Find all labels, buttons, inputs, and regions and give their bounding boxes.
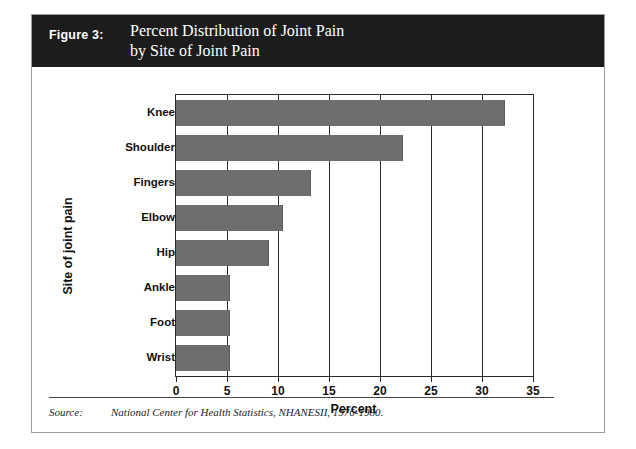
category-label-wrist: Wrist	[80, 351, 175, 363]
x-tick-0	[176, 377, 177, 382]
gridline-25	[431, 95, 432, 376]
bar-ankle	[176, 275, 230, 301]
category-label-hip: Hip	[80, 246, 175, 258]
x-tick-5	[227, 377, 228, 382]
x-tick-label-35: 35	[518, 384, 548, 398]
inner-tick	[329, 164, 330, 168]
inner-tick	[380, 129, 381, 133]
category-label-knee: Knee	[80, 106, 175, 118]
bar-foot	[176, 310, 230, 336]
source-divider	[49, 397, 554, 398]
inner-tick	[278, 234, 279, 238]
plot-area: 05101520253035	[175, 94, 534, 377]
bar-hip	[176, 240, 269, 266]
x-tick-15	[329, 377, 330, 382]
inner-tick	[227, 339, 228, 343]
category-label-foot: Foot	[80, 316, 175, 328]
category-label-fingers: Fingers	[80, 176, 175, 188]
x-tick-label-15: 15	[314, 384, 344, 398]
category-label-elbow: Elbow	[80, 211, 175, 223]
source-note: Source:National Center for Health Statis…	[49, 406, 589, 418]
figure-title: Percent Distribution of Joint Pain by Si…	[130, 21, 570, 61]
x-tick-label-5: 5	[212, 384, 242, 398]
inner-tick	[227, 129, 228, 133]
category-label-shoulder: Shoulder	[80, 141, 175, 153]
figure-title-line-1: Percent Distribution of Joint Pain	[130, 21, 570, 41]
inner-tick	[431, 129, 432, 133]
bar-elbow	[176, 205, 283, 231]
bar-wrist	[176, 345, 230, 371]
inner-tick	[278, 199, 279, 203]
x-tick-30	[482, 377, 483, 382]
x-tick-10	[278, 377, 279, 382]
bar-fingers	[176, 170, 311, 196]
inner-tick	[227, 304, 228, 308]
inner-tick	[227, 234, 228, 238]
figure-header-band: Figure 3: Percent Distribution of Joint …	[32, 15, 604, 67]
inner-tick	[227, 164, 228, 168]
bar-shoulder	[176, 135, 403, 161]
inner-tick	[380, 164, 381, 168]
source-text: National Center for Health Statistics, N…	[111, 406, 383, 418]
inner-tick	[227, 269, 228, 273]
y-axis-category-labels: KneeShoulderFingersElbowHipAnkleFootWris…	[80, 94, 175, 375]
inner-tick	[278, 164, 279, 168]
x-tick-25	[431, 377, 432, 382]
x-tick-label-30: 30	[467, 384, 497, 398]
x-tick-label-25: 25	[416, 384, 446, 398]
x-tick-label-20: 20	[365, 384, 395, 398]
inner-tick	[278, 129, 279, 133]
figure-number-label: Figure 3:	[49, 28, 104, 42]
x-tick-35	[533, 377, 534, 382]
inner-tick	[482, 129, 483, 133]
x-tick-label-10: 10	[263, 384, 293, 398]
gridline-30	[482, 95, 483, 376]
inner-tick	[329, 129, 330, 133]
bar-knee	[176, 100, 505, 126]
x-tick-label-0: 0	[161, 384, 191, 398]
inner-tick	[227, 199, 228, 203]
source-label: Source:	[49, 406, 111, 418]
figure-container: Figure 3: Percent Distribution of Joint …	[31, 14, 605, 433]
y-axis-title: Site of joint pain	[61, 166, 75, 326]
x-tick-20	[380, 377, 381, 382]
figure-title-line-2: by Site of Joint Pain	[130, 41, 570, 61]
category-label-ankle: Ankle	[80, 281, 175, 293]
chart-region: Site of joint pain KneeShoulderFingersEl…	[32, 67, 604, 434]
